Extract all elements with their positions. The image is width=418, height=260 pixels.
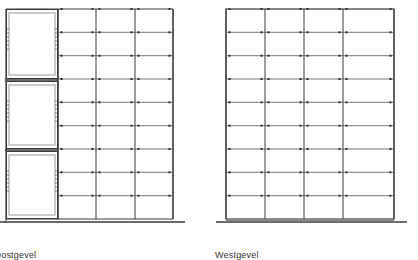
fixing-dot bbox=[229, 171, 231, 173]
fixing-dot bbox=[61, 31, 63, 33]
fixing-dot bbox=[138, 55, 140, 57]
fixing-dot bbox=[346, 31, 348, 33]
fixing-dot bbox=[390, 55, 392, 57]
fixing-dot bbox=[131, 55, 133, 57]
fixing-dot bbox=[229, 101, 231, 103]
west-facade-caption: Westgevel bbox=[215, 250, 259, 260]
fixing-dot bbox=[131, 125, 133, 127]
fixing-dot bbox=[169, 195, 171, 197]
fixing-dot bbox=[99, 125, 101, 127]
fixing-dot bbox=[261, 78, 263, 80]
fixing-dot bbox=[390, 31, 392, 33]
fixing-dot bbox=[92, 31, 94, 33]
fixing-dot bbox=[229, 31, 231, 33]
fixing-dot bbox=[261, 171, 263, 173]
fixing-dot bbox=[307, 31, 309, 33]
fixing-dot bbox=[229, 125, 231, 127]
fixing-dot bbox=[307, 148, 309, 150]
window-panel bbox=[7, 152, 58, 219]
fixing-dot bbox=[339, 78, 341, 80]
fixing-dot bbox=[229, 148, 231, 150]
fixing-dot bbox=[268, 125, 270, 127]
window-panel-inner bbox=[9, 85, 55, 145]
fixing-dot bbox=[169, 101, 171, 103]
east-facade-elevation bbox=[0, 8, 185, 222]
fixing-dot bbox=[261, 101, 263, 103]
fixing-dot bbox=[268, 148, 270, 150]
fixing-dot bbox=[390, 101, 392, 103]
fixing-dot bbox=[261, 195, 263, 197]
fixing-dot bbox=[268, 31, 270, 33]
fixing-dot bbox=[131, 78, 133, 80]
fixing-dot bbox=[268, 78, 270, 80]
fixing-dot bbox=[268, 171, 270, 173]
fixing-dot bbox=[390, 148, 392, 150]
fixing-dot bbox=[169, 171, 171, 173]
fixing-dot bbox=[229, 78, 231, 80]
fixing-dot bbox=[61, 171, 63, 173]
fixing-dot bbox=[346, 101, 348, 103]
fixing-dot bbox=[307, 55, 309, 57]
fixing-dot bbox=[268, 55, 270, 57]
fixing-dot bbox=[261, 148, 263, 150]
fixing-dot bbox=[92, 148, 94, 150]
fixing-dot bbox=[300, 171, 302, 173]
fixing-dot bbox=[169, 55, 171, 57]
fixing-dot bbox=[390, 171, 392, 173]
frame bbox=[226, 9, 394, 219]
fixing-dot bbox=[61, 101, 63, 103]
fixing-dot bbox=[261, 55, 263, 57]
fixing-dot bbox=[99, 148, 101, 150]
fixing-dot bbox=[169, 125, 171, 127]
fixing-dot bbox=[300, 125, 302, 127]
fixing-dot bbox=[169, 78, 171, 80]
fixing-dot bbox=[131, 171, 133, 173]
fixing-dot bbox=[99, 55, 101, 57]
fixing-dot bbox=[268, 195, 270, 197]
fixing-dot bbox=[61, 125, 63, 127]
fixing-dot bbox=[99, 101, 101, 103]
fixing-dot bbox=[169, 148, 171, 150]
fixing-dot bbox=[307, 195, 309, 197]
fixing-dot bbox=[339, 31, 341, 33]
fixing-dot bbox=[346, 55, 348, 57]
fixing-dot bbox=[92, 101, 94, 103]
fixing-dot bbox=[92, 125, 94, 127]
fixing-dot bbox=[307, 78, 309, 80]
fixing-dot bbox=[131, 195, 133, 197]
fixing-dot bbox=[99, 171, 101, 173]
fixing-dot bbox=[307, 101, 309, 103]
fixing-dot bbox=[307, 171, 309, 173]
fixing-dot bbox=[61, 55, 63, 57]
fixing-dot bbox=[346, 195, 348, 197]
east-facade-caption: Oostgevel bbox=[0, 250, 36, 260]
fixing-dot bbox=[346, 171, 348, 173]
fixing-dot bbox=[229, 55, 231, 57]
fixing-dot bbox=[346, 148, 348, 150]
fixing-dot bbox=[138, 195, 140, 197]
fixing-dot bbox=[61, 148, 63, 150]
fixing-dot bbox=[268, 101, 270, 103]
fixing-dot bbox=[92, 78, 94, 80]
window-panel-inner bbox=[9, 13, 55, 75]
fixing-dot bbox=[99, 78, 101, 80]
fixing-dot bbox=[300, 78, 302, 80]
fixing-dot bbox=[92, 171, 94, 173]
fixing-dot bbox=[390, 78, 392, 80]
fixing-dot bbox=[138, 171, 140, 173]
window-panel bbox=[7, 82, 58, 149]
fixing-dot bbox=[339, 171, 341, 173]
fixing-dot bbox=[390, 195, 392, 197]
fixing-dot bbox=[300, 31, 302, 33]
fixing-dot bbox=[131, 148, 133, 150]
fixing-dot bbox=[138, 125, 140, 127]
fixing-dot bbox=[138, 148, 140, 150]
fixing-dot bbox=[131, 31, 133, 33]
fixing-dot bbox=[346, 78, 348, 80]
fixing-dot bbox=[92, 55, 94, 57]
fixing-dot bbox=[138, 101, 140, 103]
fixing-dot bbox=[390, 125, 392, 127]
fixing-dot bbox=[169, 31, 171, 33]
fixing-dot bbox=[61, 195, 63, 197]
